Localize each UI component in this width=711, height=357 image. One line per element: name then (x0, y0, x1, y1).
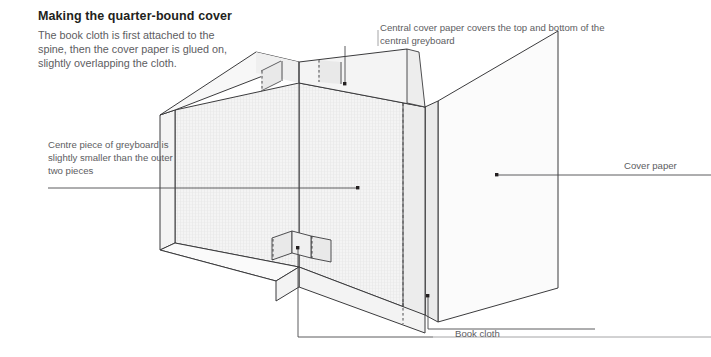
label-cover-paper: Cover paper (624, 160, 677, 171)
label-book-cloth: Book cloth (455, 328, 500, 339)
dot-book-cloth-a (296, 246, 299, 249)
dot-left-note (356, 186, 359, 189)
dot-book-cloth-b (426, 294, 429, 297)
illustration-page: Making the quarter-bound cover The book … (0, 0, 711, 357)
page-title: Making the quarter-bound cover (38, 9, 232, 23)
intro-paragraph: The book cloth is first attached to the … (38, 28, 238, 71)
dot-cover-paper (495, 173, 498, 176)
annotation-centre-greyboard: Centre piece of greyboard is slightly sm… (48, 138, 178, 177)
dot-top-note (343, 82, 346, 85)
left-panel-edge (160, 110, 175, 250)
spine-band (425, 101, 438, 322)
right-cover-panel (438, 31, 558, 322)
annotation-central-cover-paper: Central cover paper covers the top and b… (380, 21, 620, 47)
